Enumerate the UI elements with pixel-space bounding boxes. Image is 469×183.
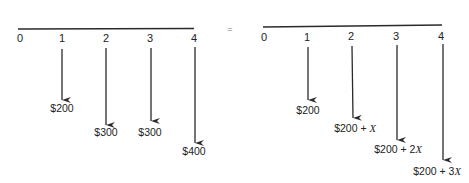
left-cash-flow-amount-4: $400 [182, 145, 206, 157]
left-period-label-3: 3 [147, 32, 153, 44]
right-cash-flow-amount-2: $200 + X [334, 122, 376, 134]
left-period-label-0: 0 [17, 32, 23, 44]
right-cash-flow-diagram: 0 1 2 3 4 $200 $200 + X $200 + 2X $200 +… [261, 25, 461, 177]
right-period-label-1: 1 [304, 31, 310, 43]
right-cash-flow-amount-4: $200 + 3X [413, 165, 461, 177]
left-time-axis [18, 29, 194, 30]
left-cash-flow-amount-2: $300 [94, 126, 118, 138]
right-cash-flow-amount-1: $200 [296, 104, 320, 116]
right-time-axis [263, 25, 442, 27]
left-period-label-4: 4 [191, 32, 197, 44]
left-cash-flow-amount-3: $300 [138, 126, 162, 138]
right-period-label-2: 2 [348, 30, 354, 42]
left-cash-flow-amount-1: $200 [50, 102, 74, 114]
right-period-label-3: 3 [393, 30, 399, 42]
left-period-label-1: 1 [59, 32, 65, 44]
left-period-label-2: 2 [103, 32, 109, 44]
right-period-label-4: 4 [438, 30, 444, 42]
right-cash-flow-amount-3: $200 + 2X [374, 143, 422, 155]
cash-flow-equivalence-diagram: 0 1 2 3 4 $200 $300 $300 $400 = 0 1 2 3 … [0, 0, 469, 183]
right-period-label-0: 0 [261, 31, 267, 43]
left-cash-flow-diagram: 0 1 2 3 4 $200 $300 $300 $400 [17, 29, 206, 158]
equals-sign: = [227, 24, 232, 34]
right-arrow-down-icon-2 [352, 46, 353, 118]
